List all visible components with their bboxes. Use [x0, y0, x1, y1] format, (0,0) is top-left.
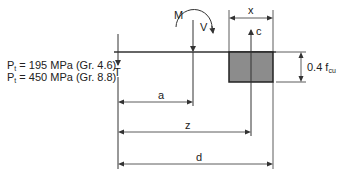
diagram-canvas: [0, 0, 348, 177]
stress-prefix: 0.4 f: [307, 61, 328, 73]
dim-z-label: z: [185, 119, 191, 131]
note-grade-88: Pt = 450 MPa (Gr. 8.8): [7, 71, 116, 87]
dim-d-label: d: [196, 151, 202, 163]
note-text: = 195 MPa (Gr. 4.6): [16, 59, 116, 71]
compression-label: c: [256, 25, 262, 37]
dim-a-label: a: [158, 89, 164, 101]
note-text: = 450 MPa (Gr. 8.8): [16, 71, 116, 83]
moment-label: M: [174, 9, 183, 21]
block-depth-label: x: [248, 4, 254, 16]
shear-label: V: [200, 21, 207, 33]
stress-subscript: cu: [328, 67, 335, 74]
stress-label: 0.4 fcu: [307, 61, 336, 77]
